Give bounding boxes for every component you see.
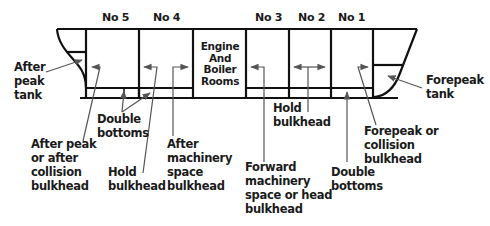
hold-bulkhead-aft-label: Hold bulkhead — [108, 165, 166, 193]
after-machinery-bulkhead-label: After machinery space bulkhead — [167, 137, 232, 193]
hold-bulkhead-fwd-label: Hold bulkhead — [273, 101, 331, 129]
after-peak-bulkhead-label: After peak or after collision bulkhead — [31, 137, 96, 193]
forepeak-bulkhead-label: Forepeak or collision bulkhead — [364, 124, 438, 166]
double-bottoms-fwd-label: Double bottoms — [331, 165, 383, 193]
hold-label-no5: No 5 — [102, 11, 129, 24]
forepeak-tank-label: Forepeak tank — [426, 73, 484, 101]
hold-label-no2: No 2 — [298, 11, 325, 24]
forward-machinery-bulkhead-label: Forward machinery space or head bulkhead — [245, 160, 332, 216]
after-peak-tank-label: After peak tank — [14, 60, 45, 102]
double-bottoms-aft-label: Double bottoms — [97, 112, 149, 140]
hold-label-no1: No 1 — [338, 11, 365, 24]
hold-label-no3: No 3 — [255, 11, 282, 24]
engine-room-label: Engine And Boiler Rooms — [196, 41, 244, 87]
hold-label-no4: No 4 — [153, 11, 180, 24]
